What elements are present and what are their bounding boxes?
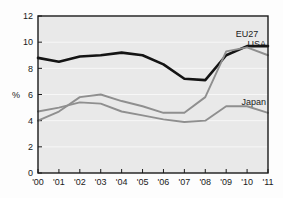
x-tick-label-4: '04 <box>116 177 128 187</box>
x-tick-label-7: '07 <box>178 177 190 187</box>
x-tick-label-11: '11 <box>262 177 273 187</box>
series-label-eu27: EU27 <box>236 29 259 39</box>
y-tick-label-12: 12 <box>23 11 33 21</box>
x-tick-label-1: '01 <box>53 177 65 187</box>
x-tick-label-8: '08 <box>199 177 211 187</box>
chart-figure: 024681012 '00'01'02'03'04'05'06'07'08'09… <box>0 0 283 198</box>
y-axis-title: % <box>12 90 20 100</box>
series-label-usa: USA <box>247 39 266 49</box>
x-tick-label-5: '05 <box>137 177 149 187</box>
y-tick-label-8: 8 <box>28 64 33 74</box>
x-tick-label-9: '09 <box>220 177 232 187</box>
x-tick-label-10: '10 <box>241 177 253 187</box>
y-tick-label-6: 6 <box>28 90 33 100</box>
x-tick-label-0: '00 <box>32 177 44 187</box>
y-tick-label-10: 10 <box>23 37 33 47</box>
x-tick-label-3: '03 <box>95 177 107 187</box>
x-tick-label-2: '02 <box>74 177 86 187</box>
x-tick-label-6: '06 <box>158 177 170 187</box>
series-label-japan: Japan <box>241 97 266 107</box>
y-tick-label-2: 2 <box>28 142 33 152</box>
y-tick-label-4: 4 <box>28 116 33 126</box>
line-chart: 024681012 '00'01'02'03'04'05'06'07'08'09… <box>0 0 283 198</box>
